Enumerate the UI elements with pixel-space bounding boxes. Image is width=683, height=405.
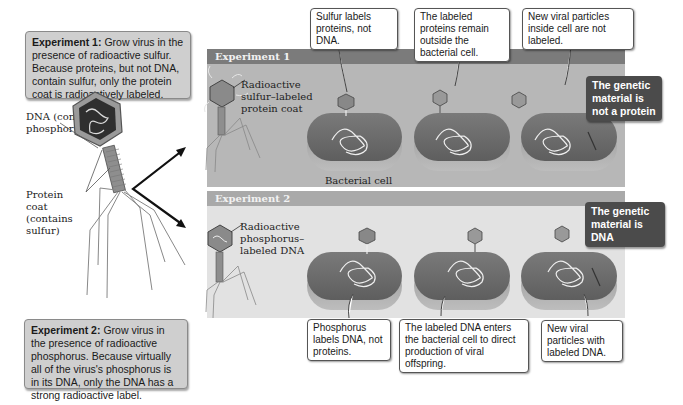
exp2-phage-label: Radioactive phosphorus–labeled DNA bbox=[240, 221, 310, 257]
exp2-bacterial-cell-2-icon bbox=[414, 228, 510, 310]
exp1-bacterial-cell-1-icon bbox=[307, 94, 402, 171]
large-phage-icon bbox=[60, 92, 185, 298]
exp1-phage-label: Radioactive sulfur–labeled protein coat bbox=[241, 79, 321, 115]
exp1-callout-1: Sulfur labels proteins, not DNA. bbox=[310, 8, 398, 50]
exp1-bacterial-cell-2-icon bbox=[414, 90, 510, 171]
exp1-conclusion: The genetic material is not a protein bbox=[586, 76, 662, 121]
exp2-callout-3: New viral particles with labeled DNA. bbox=[541, 320, 623, 362]
exp2-callout-1: Phosphorus labels DNA, not proteins. bbox=[307, 319, 391, 361]
exp2-bacterial-cell-1-icon bbox=[307, 228, 402, 310]
exp1-callout-3: New viral particles inside cell are not … bbox=[522, 8, 634, 50]
bacterial-cell-label: Bacterial cell bbox=[325, 175, 392, 187]
exp1-callout-2: The labeled proteins remain outside the … bbox=[414, 8, 510, 62]
exp2-callout-2: The labeled DNA enters the bacterial cel… bbox=[399, 319, 529, 373]
exp2-conclusion: The genetic material is DNA bbox=[585, 202, 665, 247]
